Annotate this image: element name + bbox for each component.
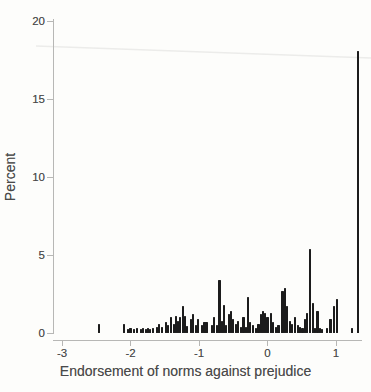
histogram-bar [329,319,331,333]
histogram-bar [186,326,188,333]
x-tick-mark [336,340,337,346]
histogram-bar [170,317,172,333]
histogram-bar [351,328,353,333]
histogram-bar [129,328,131,333]
x-tick-label: -3 [47,347,77,359]
y-tick-label: 0 [5,328,45,339]
histogram-bar [237,321,239,333]
x-tick-label: -2 [116,347,146,359]
plot-area [53,19,362,333]
histogram-bar [179,317,181,333]
histogram-bar [161,327,163,333]
histogram-bar [336,299,338,333]
histogram-bar [272,322,274,333]
histogram-bar [123,324,125,333]
histogram-bar [192,314,194,333]
histogram-bar [213,317,215,333]
x-tick-mark [267,340,268,346]
x-axis-line [53,340,362,341]
histogram-bar [252,325,254,333]
histogram-bar [321,329,323,333]
histogram-bar [133,329,135,333]
x-tick-mark [199,340,200,346]
histogram-figure: 05101520 -3-2-101 Endorsement of norms a… [0,0,371,392]
x-tick-mark [62,340,63,346]
histogram-bar [326,328,328,333]
x-tick-label: 1 [321,347,351,359]
x-tick-label: -1 [184,347,214,359]
histogram-bar [197,319,199,333]
y-tick-label: 20 [5,16,45,27]
x-tick-mark [130,340,131,346]
y-axis-title: Percent [2,127,18,227]
histogram-bar [294,317,296,333]
histogram-bar [309,249,311,333]
histogram-bar [266,317,268,333]
histogram-bar [357,51,359,333]
histogram-bar [291,324,293,333]
histogram-bar [152,328,154,333]
histogram-bar [167,325,169,333]
histogram-bar [333,306,335,333]
histogram-bar [136,328,138,333]
histogram-bar [205,322,207,333]
histogram-bar [98,324,100,333]
histogram-bar [306,313,308,333]
y-tick-label: 15 [5,94,45,105]
x-tick-label: 0 [253,347,283,359]
x-axis-title: Endorsement of norms against prejudice [0,363,371,379]
histogram-bar [142,328,144,333]
histogram-bar [277,325,279,333]
y-tick-label: 5 [5,250,45,261]
